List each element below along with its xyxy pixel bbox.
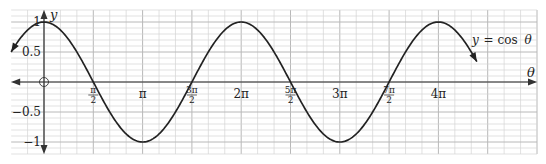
cosine-graph: π2π3π22π5π23π7π24π10.5−0.5−1 y θ y = cos…	[0, 0, 546, 164]
x-tick-label-denominator: 2	[386, 95, 392, 105]
x-axis-left-arrow-icon	[11, 79, 20, 86]
function-label-y: y	[471, 33, 479, 47]
x-tick-label-denominator: 2	[288, 95, 294, 105]
x-tick-label: π	[139, 87, 147, 101]
x-tick-label: 3π	[332, 87, 348, 101]
curve-start-arrow-icon	[11, 42, 19, 52]
y-axis-up-arrow-icon	[41, 10, 48, 19]
function-label-cos: = cos	[484, 33, 518, 47]
x-axis-label: θ	[527, 65, 535, 80]
y-tick-label: 0.5	[22, 45, 41, 59]
x-tick-label: 2π	[233, 87, 249, 101]
y-axis-down-arrow-icon	[41, 145, 48, 154]
curve-end-arrow-icon	[469, 52, 476, 62]
function-label-theta: θ	[524, 33, 532, 47]
x-tick-label: 4π	[431, 87, 447, 101]
y-tick-label: −1	[23, 135, 41, 149]
x-tick-label-denominator: 2	[189, 95, 195, 105]
y-tick-label: −0.5	[12, 105, 41, 119]
y-axis-label: y	[49, 7, 58, 22]
x-tick-label-denominator: 2	[90, 95, 96, 105]
